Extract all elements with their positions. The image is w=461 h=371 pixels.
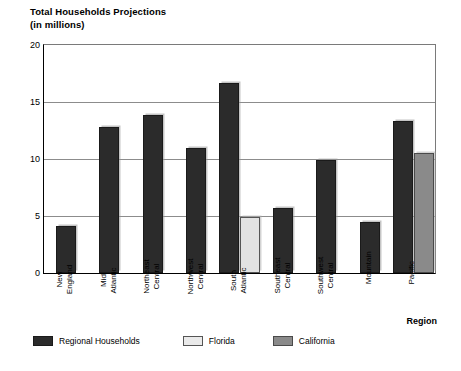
x-axis-label-text: Pacific: [408, 261, 418, 285]
x-axis-label-text: Northwest Central: [186, 258, 205, 294]
x-axis-label-text: South Atlantic: [229, 268, 248, 294]
bar-group: [56, 45, 76, 273]
bar: [219, 83, 239, 273]
legend-swatch-icon: [183, 336, 203, 346]
bar: [99, 127, 119, 273]
legend-item: Regional Households: [33, 336, 140, 346]
chart-title-line2: (in millions): [30, 19, 85, 30]
chart-title-line1: Total Households Projections: [30, 6, 166, 17]
chart-legend: Regional HouseholdsFloridaCalifornia: [33, 336, 335, 346]
legend-label: California: [299, 336, 335, 346]
bar-group: [186, 45, 206, 273]
bar: [393, 121, 413, 273]
plot-area: 05101520: [43, 44, 436, 274]
legend-item: California: [273, 336, 335, 346]
chart-title: Total Households Projections (in million…: [30, 6, 166, 31]
bar: [414, 153, 434, 273]
x-axis-label-text: Southwest Central: [316, 257, 335, 294]
y-axis-tick-label: 20: [30, 41, 40, 50]
x-axis-label-text: Mountain: [364, 252, 374, 285]
bar-group: [393, 45, 434, 273]
bar-group: [316, 45, 336, 273]
bar-group: [360, 45, 380, 273]
legend-label: Regional Households: [59, 336, 140, 346]
x-axis-title: Region: [407, 316, 438, 326]
bar-group: [143, 45, 163, 273]
bar-group: [99, 45, 119, 273]
bar-group: [273, 45, 293, 273]
legend-swatch-icon: [33, 336, 53, 346]
bar: [186, 148, 206, 273]
bar: [240, 217, 260, 273]
y-axis-tick-label: 10: [30, 155, 40, 164]
y-axis-tick-label: 5: [35, 212, 40, 221]
legend-swatch-icon: [273, 336, 293, 346]
x-axis-label-text: Southeast Central: [272, 258, 291, 294]
x-axis-label-text: Mid Atlantic: [99, 268, 118, 294]
y-axis-tick-label: 15: [30, 98, 40, 107]
x-axis-category-labels: New EnglandMid AtlanticNortheast Central…: [43, 275, 434, 335]
bar: [143, 115, 163, 273]
chart-figure: Total Households Projections (in million…: [0, 0, 461, 371]
x-axis-label-text: Northeast Central: [142, 259, 161, 294]
legend-item: Florida: [183, 336, 235, 346]
legend-label: Florida: [209, 336, 235, 346]
bar-group: [219, 45, 260, 273]
x-axis-label-text: New England: [55, 265, 74, 294]
